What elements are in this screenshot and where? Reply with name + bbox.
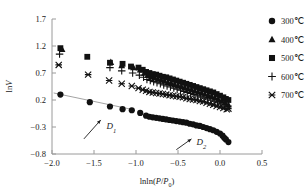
marker-x (129, 83, 136, 89)
marker-circle (57, 92, 63, 98)
legend-item-300[interactable]: 300℃ (269, 16, 304, 26)
marker-triangle (268, 36, 275, 43)
marker-square (128, 64, 134, 70)
marker-x (55, 62, 62, 68)
legend-label: 400℃ (281, 35, 304, 45)
x-tick-label: −1.0 (128, 158, 143, 168)
marker-x (118, 81, 125, 87)
y-tick-label: 0.7 (35, 68, 46, 78)
marker-x (269, 92, 276, 98)
x-axis: −2.0−1.5−1.0−0.50.00.5 (44, 150, 267, 168)
chart-container: −0.8−0.30.20.71.21.7−2.0−1.5−1.0−0.50.00… (0, 0, 308, 193)
marker-circle (137, 110, 143, 116)
y-tick-label: 0.2 (35, 95, 46, 105)
x-tick-label: −0.5 (170, 158, 185, 168)
legend-item-500[interactable]: 500℃ (269, 53, 304, 63)
x-tick-label: 0.0 (215, 158, 226, 168)
annotation-arrow-head (187, 139, 191, 143)
plot-frame (52, 19, 262, 154)
legend-item-700[interactable]: 700℃ (269, 90, 304, 100)
marker-circle (87, 99, 93, 105)
y-tick-label: 1.2 (35, 41, 46, 51)
marker-square (226, 97, 232, 103)
marker-square (84, 54, 90, 60)
x-tick-label: −1.5 (86, 158, 101, 168)
x-tick-label: 0.5 (257, 158, 268, 168)
marker-square (120, 61, 126, 67)
marker-square (269, 55, 275, 61)
scatter-chart: −0.8−0.30.20.71.21.7−2.0−1.5−1.0−0.50.00… (0, 0, 308, 193)
legend-item-400[interactable]: 400℃ (268, 35, 303, 45)
marker-circle (129, 107, 135, 113)
y-axis-title: lnV (4, 79, 14, 93)
x-axis-title: lnln(P/P0) (140, 176, 175, 188)
annotation-D2: D2 (176, 137, 207, 150)
y-tick-label: 1.7 (35, 14, 46, 24)
legend-label: 600℃ (281, 72, 304, 82)
legend-label: 700℃ (281, 90, 304, 100)
marker-circle (225, 139, 231, 145)
y-tick-label: −0.3 (31, 122, 46, 132)
marker-circle (269, 18, 275, 24)
annotation-D1: D1 (84, 120, 116, 139)
annotation-label: D2 (195, 137, 207, 150)
marker-x (85, 72, 92, 78)
marker-plus (129, 69, 137, 77)
legend-item-600[interactable]: 600℃ (268, 72, 304, 82)
x-tick-label: −2.0 (44, 158, 59, 168)
marker-plus (268, 73, 276, 81)
marker-x (106, 77, 113, 83)
marker-circle (119, 106, 125, 112)
legend-label: 300℃ (281, 16, 304, 26)
marker-square (58, 45, 64, 51)
legend-label: 500℃ (281, 53, 304, 63)
marker-circle (107, 103, 113, 109)
marker-plus (118, 67, 126, 75)
marker-square (107, 60, 113, 66)
annotation-label: D1 (106, 121, 117, 134)
legend: 300℃400℃500℃600℃700℃ (268, 16, 304, 100)
axis-lines (52, 19, 262, 154)
